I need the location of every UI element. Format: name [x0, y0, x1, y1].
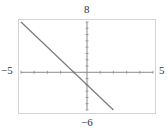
- plotted-line: [21, 22, 113, 110]
- graph-window: [0, 0, 167, 133]
- y-max-label: 8: [84, 4, 90, 15]
- x-max-label: 5: [159, 65, 165, 76]
- x-min-label: −5: [1, 65, 13, 76]
- y-min-label: −6: [81, 117, 93, 128]
